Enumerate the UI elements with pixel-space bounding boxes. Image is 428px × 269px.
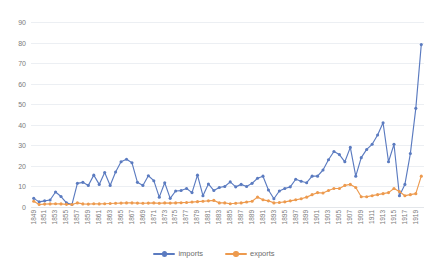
data-point <box>212 199 215 202</box>
data-point <box>283 187 286 190</box>
data-point <box>163 201 166 204</box>
data-point <box>207 182 210 185</box>
x-axis-tick-label: 1891 <box>260 210 267 224</box>
legend-label: exports <box>250 250 275 258</box>
x-axis-tick-label: 1859 <box>85 210 92 224</box>
data-point <box>327 189 330 192</box>
x-axis-tick-label: 1855 <box>63 210 70 224</box>
data-point <box>343 160 346 163</box>
series-line-imports <box>34 45 422 205</box>
data-point <box>382 192 385 195</box>
data-point <box>338 187 341 190</box>
data-point <box>360 156 363 159</box>
x-axis-tick-label: 1865 <box>118 210 125 224</box>
data-point <box>59 202 62 205</box>
x-axis-tick-label: 1885 <box>227 210 234 224</box>
data-point <box>420 43 423 46</box>
data-point <box>32 200 35 203</box>
data-point <box>158 196 161 199</box>
x-axis-tick-label: 1913 <box>380 210 387 224</box>
legend-label: imports <box>178 250 203 258</box>
data-point <box>87 184 90 187</box>
data-point <box>371 194 374 197</box>
x-axis-tick-label: 1901 <box>314 210 321 224</box>
series-line-exports <box>34 176 422 204</box>
data-point <box>152 201 155 204</box>
x-axis-tick-label: 1897 <box>293 210 300 224</box>
data-point <box>398 194 401 197</box>
x-axis-tick-label: 1909 <box>358 210 365 224</box>
data-point <box>141 184 144 187</box>
data-point <box>300 180 303 183</box>
data-point <box>49 202 52 205</box>
x-axis-tick-label: 1871 <box>151 210 158 224</box>
data-point <box>163 181 166 184</box>
x-axis-tick-label: 1853 <box>52 210 59 224</box>
data-point <box>251 182 254 185</box>
data-point <box>174 201 177 204</box>
x-axis-tick-label: 1895 <box>282 210 289 224</box>
data-point <box>98 183 101 186</box>
data-point <box>136 202 139 205</box>
legend-swatch-icon <box>225 250 247 258</box>
data-point <box>125 158 128 161</box>
data-point <box>332 150 335 153</box>
data-point <box>147 202 150 205</box>
data-point <box>185 201 188 204</box>
x-axis-tick-label: 1863 <box>107 210 114 224</box>
data-point <box>65 203 68 206</box>
data-point <box>392 187 395 190</box>
line-chart: 0102030405060708090 18491851185318551857… <box>0 0 428 269</box>
data-point <box>120 160 123 163</box>
data-point <box>387 160 390 163</box>
series-imports <box>32 43 423 206</box>
x-axis-tick-label: 1881 <box>205 210 212 224</box>
data-point <box>376 193 379 196</box>
x-axis-tick-label: 1861 <box>96 210 103 224</box>
data-point <box>38 203 41 206</box>
data-point <box>147 174 150 177</box>
data-point <box>109 184 112 187</box>
data-point <box>311 175 314 178</box>
data-point <box>321 168 324 171</box>
x-axis-tick-label: 1869 <box>140 210 147 224</box>
data-point <box>278 201 281 204</box>
x-axis-tick-label: 1917 <box>402 210 409 224</box>
data-point <box>283 200 286 203</box>
legend-item-exports[interactable]: exports <box>225 250 275 258</box>
data-point <box>196 200 199 203</box>
data-point <box>98 202 101 205</box>
data-point <box>223 201 226 204</box>
data-point <box>180 189 183 192</box>
data-point <box>251 200 254 203</box>
data-point <box>376 134 379 137</box>
legend-item-imports[interactable]: imports <box>153 250 203 258</box>
data-point <box>54 202 57 205</box>
data-point <box>256 177 259 180</box>
data-point <box>316 175 319 178</box>
data-point <box>289 185 292 188</box>
data-point <box>190 201 193 204</box>
data-point <box>305 196 308 199</box>
data-point <box>300 197 303 200</box>
data-point <box>414 192 417 195</box>
data-point <box>256 196 259 199</box>
data-point <box>120 202 123 205</box>
data-point <box>103 171 106 174</box>
data-point <box>316 191 319 194</box>
data-point <box>158 202 161 205</box>
data-point <box>229 180 232 183</box>
data-point <box>360 195 363 198</box>
data-point <box>267 188 270 191</box>
data-point <box>409 193 412 196</box>
data-point <box>190 191 193 194</box>
data-point <box>245 201 248 204</box>
data-point <box>196 174 199 177</box>
data-point <box>234 185 237 188</box>
data-point <box>321 191 324 194</box>
data-point <box>261 198 264 201</box>
data-point <box>403 194 406 197</box>
data-point <box>272 197 275 200</box>
x-axis-tick-label: 1851 <box>41 210 48 224</box>
data-point <box>38 200 41 203</box>
